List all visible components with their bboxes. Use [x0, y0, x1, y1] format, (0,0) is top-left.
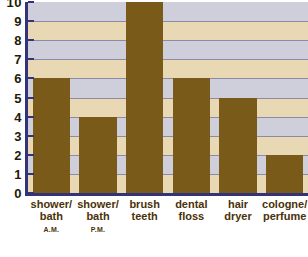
y-tick-mark — [28, 173, 34, 175]
bar-chart: 109876543210 shower/bathA.M.shower/bathP… — [0, 0, 308, 257]
y-axis-labels: 109876543210 — [0, 0, 24, 196]
x-axis-label-line2: perfume — [257, 210, 308, 222]
y-tick-label: 1 — [14, 167, 22, 180]
y-tick-mark — [28, 1, 34, 3]
y-tick-mark — [28, 97, 34, 99]
bars-layer — [28, 2, 308, 193]
bar — [126, 2, 163, 193]
y-tick-label: 7 — [14, 53, 22, 66]
y-tick-label: 9 — [14, 15, 22, 28]
y-tick-label: 6 — [14, 72, 22, 85]
y-tick-mark — [28, 135, 34, 137]
y-tick-mark — [28, 39, 34, 41]
y-tick-label: 0 — [14, 187, 22, 200]
x-axis-label-line1: cologne/ — [257, 198, 308, 210]
x-axis-line — [25, 193, 308, 196]
y-tick-mark — [28, 192, 34, 194]
x-axis-label: cologne/perfume — [257, 198, 308, 222]
y-tick-label: 5 — [14, 91, 22, 104]
y-tick-mark — [28, 77, 34, 79]
y-tick-mark — [28, 58, 34, 60]
x-axis-labels: shower/bathA.M.shower/bathP.M.brushteeth… — [28, 198, 308, 256]
bar — [33, 78, 70, 193]
y-tick-label: 4 — [14, 110, 22, 123]
y-tick-label: 10 — [7, 0, 22, 9]
y-tick-label: 2 — [14, 148, 22, 161]
bar — [266, 155, 303, 193]
y-tick-mark — [28, 116, 34, 118]
y-tick-label: 8 — [14, 34, 22, 47]
x-axis-label-sublabel: P.M. — [70, 224, 126, 235]
bar — [79, 117, 116, 193]
bar — [219, 98, 256, 194]
y-tick-mark — [28, 20, 34, 22]
plot-area — [28, 2, 308, 193]
y-tick-label: 3 — [14, 129, 22, 142]
y-tick-mark — [28, 154, 34, 156]
bar — [173, 78, 210, 193]
